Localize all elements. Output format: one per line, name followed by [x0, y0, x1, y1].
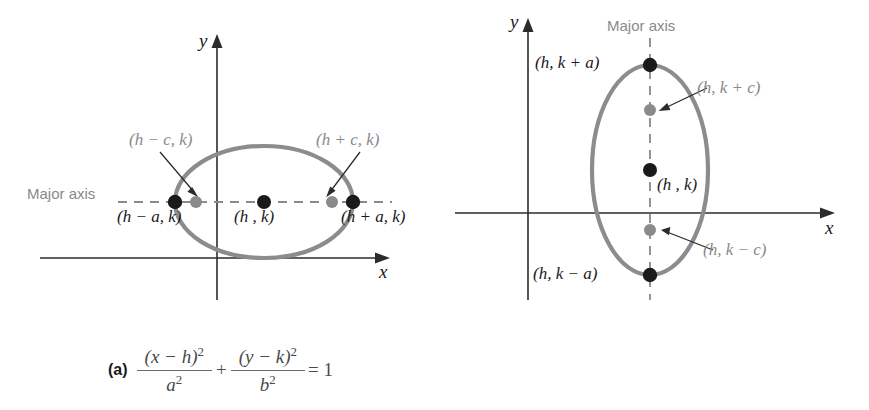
- x-axis-label: x: [379, 262, 387, 281]
- top-vertex-label: (h, k + a): [535, 54, 599, 71]
- panel-a-equation: (x − h)2 a2 + (y − k)2 b2 = 1: [138, 344, 333, 396]
- equals-one: = 1: [308, 359, 333, 381]
- upper-focus-label: (h, k + c): [697, 79, 760, 96]
- term-1-numerator: (x − h)2: [141, 344, 208, 369]
- x-axis: [40, 253, 390, 264]
- center-label: (h , k): [657, 176, 697, 193]
- center-label: (h , k): [234, 208, 274, 225]
- y-axis: [212, 34, 223, 300]
- left-vertex-label: (h − a, k): [117, 208, 181, 225]
- major-axis-label: Major axis: [27, 186, 95, 201]
- center-dot: [643, 163, 657, 177]
- right-focus-label: (h + c, k): [316, 131, 379, 148]
- focus-leader-arrows: [661, 88, 714, 250]
- upper-focus-dot: [644, 104, 656, 116]
- term-1-fraction: (x − h)2 a2: [141, 344, 208, 396]
- plus-operator: +: [216, 359, 227, 381]
- x-axis-label: x: [825, 218, 833, 237]
- term-2-fraction: (y − k)2 b2: [235, 344, 301, 396]
- right-vertex-label: (h + a, k): [341, 208, 405, 225]
- bottom-vertex-dot: [643, 268, 657, 282]
- panel-a-tag: (a): [108, 361, 128, 379]
- major-axis-label: Major axis: [607, 18, 675, 33]
- panel-a-caption: (a) (x − h)2 a2 + (y − k)2 b2 = 1: [108, 344, 333, 396]
- left-focus-label: (h − c, k): [129, 131, 192, 148]
- top-vertex-dot: [643, 58, 657, 72]
- term-2-denominator: b2: [231, 370, 305, 396]
- lower-focus-label: (h, k − c): [703, 241, 766, 258]
- panel-a-plot: [0, 0, 435, 310]
- right-focus-dot: [326, 196, 338, 208]
- panel-a-horizontal-ellipse: y x Major axis (h − c, k) (h + c, k) (h …: [0, 0, 435, 410]
- panel-b-vertical-ellipse: y x Major axis (h, k + a) (h, k + c) (h …: [435, 0, 869, 410]
- left-focus-dot: [190, 196, 202, 208]
- y-axis-label: y: [510, 12, 518, 31]
- y-axis-label: y: [199, 31, 207, 50]
- ellipse-standard-forms-figure: y x Major axis (h − c, k) (h + c, k) (h …: [0, 0, 869, 410]
- bottom-vertex-label: (h, k − a): [533, 265, 597, 282]
- term-1-denominator: a2: [137, 370, 212, 396]
- lower-focus-dot: [644, 224, 656, 236]
- term-2-numerator: (y − k)2: [235, 344, 301, 369]
- x-axis: [455, 208, 835, 219]
- y-axis: [523, 18, 534, 300]
- panel-b-plot: [435, 0, 869, 310]
